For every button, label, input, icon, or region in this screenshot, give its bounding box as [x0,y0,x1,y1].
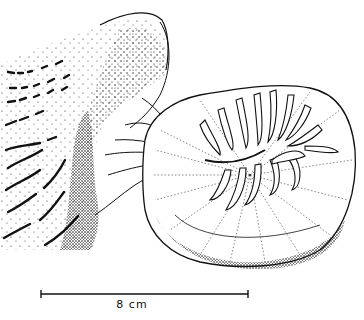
scale-bar-label: 8 cm [110,298,154,311]
scale-bar [41,290,248,298]
polyp-disc [143,86,356,270]
drawing [0,0,364,320]
illustration: 8 cm [0,0,364,320]
rock-substrate [0,13,168,250]
